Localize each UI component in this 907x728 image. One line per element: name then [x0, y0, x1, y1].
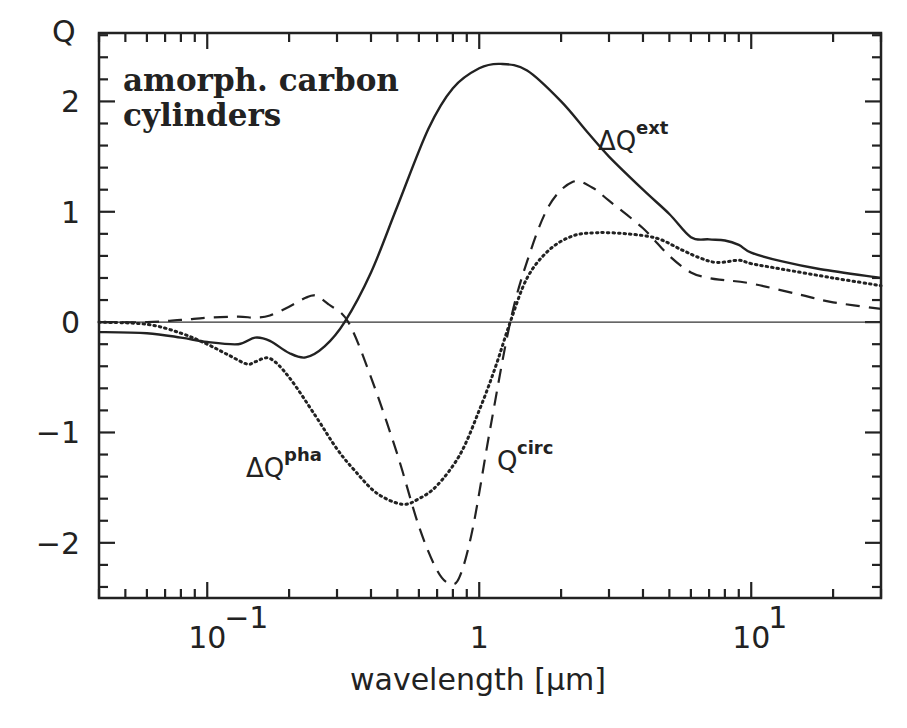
y-tick-label: −2: [36, 526, 80, 561]
curve-label-pha: ΔQpha: [246, 444, 322, 483]
y-axis-title: Q: [52, 14, 76, 49]
y-tick-label: −1: [36, 415, 80, 450]
x-tick-labels: 10−11101: [188, 600, 787, 655]
x-tick-exponent: −1: [224, 600, 268, 635]
y-tick-label: 2: [61, 84, 80, 119]
curves: [99, 64, 881, 584]
x-axis-title: wavelength [μm]: [350, 662, 606, 697]
svg-text:Q: Q: [497, 446, 517, 476]
y-tick-label: 1: [61, 195, 80, 230]
x-tick-label: 10: [732, 620, 770, 655]
x-tick-exponent: 1: [768, 600, 787, 635]
annotation-line-2: cylinders: [123, 97, 281, 133]
curve-label-circ: Qcirc: [497, 437, 553, 476]
chart: 210−1−2 10−11101 Q wavelength [μm] amorp…: [0, 0, 907, 728]
curve-label-ext: ΔQext: [598, 117, 669, 156]
x-tick-label: 10: [188, 620, 226, 655]
curve-dotted: [99, 233, 881, 505]
x-tick-label: 1: [470, 620, 489, 655]
svg-text:circ: circ: [517, 437, 553, 458]
y-tick-labels: 210−1−2: [36, 84, 80, 560]
y-tick-label: 0: [61, 305, 80, 340]
curve-labels: ΔQextQcircΔQpha: [246, 117, 669, 483]
svg-text:pha: pha: [284, 444, 322, 465]
svg-text:ΔQ: ΔQ: [598, 126, 636, 156]
svg-text:ΔQ: ΔQ: [246, 453, 284, 483]
annotation-line-1: amorph. carbon: [123, 62, 399, 98]
svg-text:ext: ext: [636, 117, 669, 138]
